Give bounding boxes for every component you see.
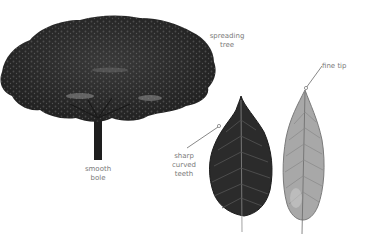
- leaf-upper-surface: [210, 96, 273, 232]
- tree-illustration: [0, 16, 215, 160]
- label-sharp-curved-teeth: sharp curved teeth: [164, 152, 204, 179]
- leaf-underside: [283, 90, 324, 234]
- label-smooth-bole: smooth bole: [76, 165, 120, 183]
- illustration-canvas: [0, 0, 369, 246]
- label-fine-tip: fine tip: [322, 62, 362, 71]
- tree-trunk: [94, 118, 102, 160]
- leader-line-tip: [304, 66, 322, 90]
- label-spreading-tree: spreading tree: [204, 32, 250, 50]
